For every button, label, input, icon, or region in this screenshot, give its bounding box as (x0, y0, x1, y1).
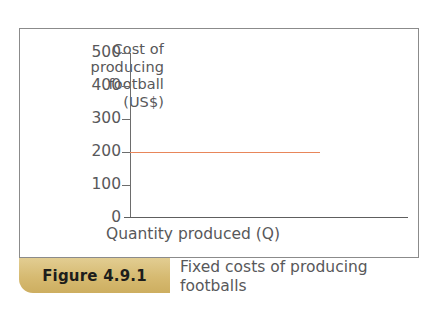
y-tick-label-100: 100 (65, 177, 130, 193)
figure-number-label: Figure 4.9.1 (42, 267, 147, 285)
y-tick-mark-300 (122, 119, 130, 120)
y-tick-mark-400 (122, 86, 130, 87)
figure-caption-line-2: footballs (180, 277, 420, 296)
figure-number-tag: Figure 4.9.1 (19, 258, 170, 293)
y-tick-label-500: 500 (65, 45, 130, 61)
x-axis-title: Quantity produced (Q) (106, 225, 280, 243)
y-axis-spine (130, 53, 131, 218)
plot-area: 500 400 300 200 100 0 (130, 53, 402, 218)
figure-container: Cost of producing football (US$) 500 400… (0, 0, 441, 336)
figure-caption: Fixed costs of producing footballs (180, 258, 420, 296)
y-tick-mark-500 (122, 53, 130, 54)
fixed-cost-line (130, 152, 320, 153)
chart-frame: Cost of producing football (US$) 500 400… (19, 28, 419, 258)
y-tick-label-300: 300 (65, 111, 130, 127)
y-tick-mark-100 (122, 185, 130, 186)
x-axis-spine (124, 217, 408, 218)
figure-caption-line-1: Fixed costs of producing (180, 258, 420, 277)
y-tick-label-400: 400 (65, 78, 130, 94)
y-tick-mark-200 (122, 152, 130, 153)
y-tick-label-200: 200 (65, 144, 130, 160)
y-tick-label-0: 0 (65, 210, 130, 226)
